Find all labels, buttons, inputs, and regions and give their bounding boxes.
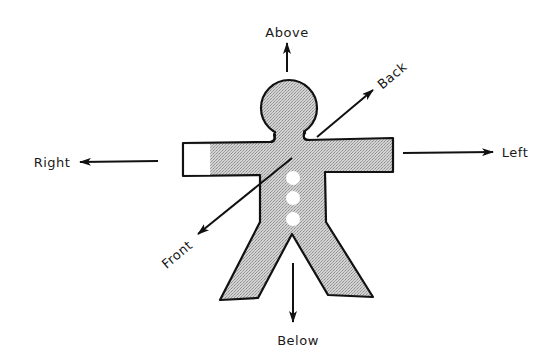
label-front: Front — [159, 237, 196, 271]
label-back: Back — [374, 59, 409, 92]
human-figure — [183, 80, 393, 300]
label-above: Above — [265, 25, 308, 40]
figure-button-3 — [286, 212, 300, 226]
arm-end-highlight — [184, 144, 210, 175]
right-arrow — [80, 161, 158, 162]
direction-diagram: Above Below Right Left Back Front — [0, 0, 556, 363]
figure-head — [261, 80, 317, 136]
label-left: Left — [502, 145, 528, 160]
figure-button-1 — [286, 171, 300, 185]
back-arrow — [317, 90, 373, 137]
label-below: Below — [277, 333, 319, 348]
left-arrow — [403, 152, 493, 153]
label-right: Right — [34, 155, 71, 170]
figure-button-2 — [286, 191, 300, 205]
